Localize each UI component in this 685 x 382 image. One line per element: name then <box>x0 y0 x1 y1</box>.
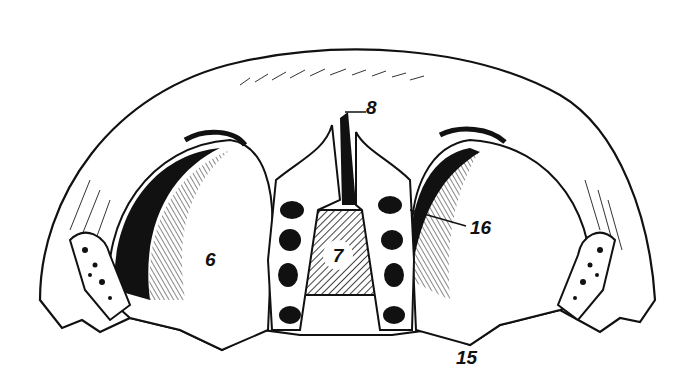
label-6: 6 <box>205 250 216 269</box>
label-16: 16 <box>470 218 491 237</box>
label-8: 8 <box>366 98 377 117</box>
frontal-bone-illustration <box>0 0 685 382</box>
label-7: 7 <box>323 240 353 270</box>
label-15: 15 <box>456 348 477 367</box>
